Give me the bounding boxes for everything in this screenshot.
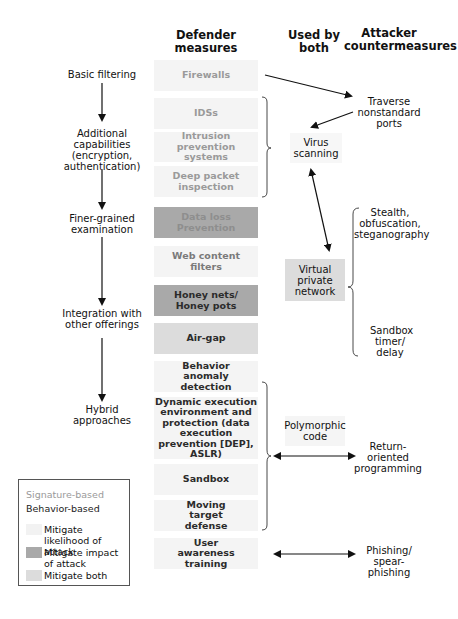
brace-attacker-group (348, 208, 359, 356)
brace-hybrid-group (262, 382, 271, 530)
legend-signature-based: Signature-based (26, 489, 104, 500)
arrow-traverse-virus (312, 112, 353, 127)
brace-ids-group (262, 97, 271, 197)
legend-swatch-impact (26, 547, 42, 558)
arrow-firewalls-traverse (265, 75, 351, 96)
legend-label-impact: Mitigate impact of attack (44, 547, 130, 569)
legend-swatch-both (26, 570, 42, 581)
legend: Signature-based Behavior-based Mitigate … (18, 479, 130, 586)
legend-label-both: Mitigate both (44, 570, 130, 581)
legend-behavior-based: Behavior-based (26, 503, 100, 514)
legend-swatch-likelihood (26, 524, 42, 535)
arrow-virus-vpn (311, 170, 329, 250)
